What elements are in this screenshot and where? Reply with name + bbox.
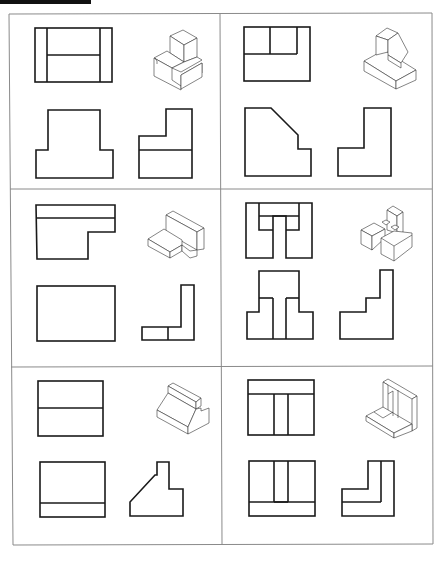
top-view xyxy=(246,203,312,258)
grid-frame xyxy=(9,13,433,545)
isometric-view xyxy=(157,383,209,434)
worksheet-sheet xyxy=(0,0,440,564)
top-view xyxy=(35,28,112,82)
front-view xyxy=(40,462,105,517)
panel-1 xyxy=(35,28,202,178)
front-view xyxy=(245,108,311,176)
top-view xyxy=(38,381,103,436)
side-view xyxy=(338,108,391,176)
front-view xyxy=(249,461,315,516)
side-view xyxy=(139,109,192,178)
front-view xyxy=(247,271,313,339)
side-view xyxy=(142,285,194,340)
isometric-view xyxy=(148,211,204,258)
top-view xyxy=(36,205,115,259)
panel-3 xyxy=(36,205,204,341)
isometric-view xyxy=(366,379,417,438)
panel-4 xyxy=(246,203,412,339)
isometric-view xyxy=(364,28,416,89)
isometric-view xyxy=(361,206,412,261)
panel-5 xyxy=(38,381,209,517)
side-view xyxy=(130,462,183,516)
side-view xyxy=(340,270,393,339)
top-view xyxy=(244,27,310,81)
front-view xyxy=(37,286,115,341)
panel-2 xyxy=(244,27,416,176)
side-view xyxy=(342,461,394,516)
panel-6 xyxy=(248,379,417,516)
front-view xyxy=(36,110,113,178)
top-view xyxy=(248,380,314,435)
isometric-view xyxy=(154,30,202,90)
